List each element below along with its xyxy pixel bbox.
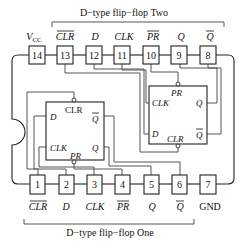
- ff-two-clk-label: CLK: [152, 98, 170, 108]
- bottom-title: D−type flip−flop One: [66, 227, 154, 238]
- flip-flop-one: CLR PR D CLK Q Q: [46, 98, 104, 164]
- ff-one-d-label: D: [49, 112, 57, 122]
- pin-1-number: 1: [35, 179, 40, 190]
- pin8-label: Q: [206, 31, 214, 42]
- top-title: D−type flip−flop Two: [80, 7, 168, 18]
- ff-one-q-label: Q: [92, 143, 99, 153]
- ff-two-pr-bubble: [176, 82, 180, 86]
- pin5-label: Q: [148, 201, 156, 212]
- pin-10-number: 10: [146, 50, 156, 61]
- pin4-label: PR: [116, 201, 129, 212]
- pin-2-number: 2: [64, 179, 69, 190]
- pin-8-number: 8: [206, 50, 211, 61]
- ff-one-clr-label: CLR: [65, 105, 83, 115]
- pin-4-number: 4: [120, 179, 125, 190]
- flip-flop-two: PR CLR CLK D Q Q: [149, 82, 207, 148]
- pin-9-number: 9: [177, 50, 182, 61]
- ff-two-clr-bubble: [176, 144, 180, 148]
- pin11-label: CLK: [115, 31, 135, 42]
- pin7-label: GND: [199, 201, 221, 212]
- ff-two-pr-label: PR: [170, 88, 182, 98]
- pin12-label: D: [90, 31, 99, 42]
- pin9-label: Q: [177, 31, 185, 42]
- pin6-label: Q: [176, 201, 184, 212]
- pin-5-number: 5: [149, 179, 154, 190]
- ff-one-pr-label: PR: [69, 151, 81, 161]
- pin1-label: CLR: [29, 201, 47, 212]
- pin-13-number: 13: [60, 50, 70, 61]
- top-bracket: [52, 22, 224, 27]
- chip-outline-right: [216, 55, 234, 184]
- pin13-label: CLR: [56, 31, 74, 42]
- ff-one-clr-bubble: [72, 98, 76, 102]
- pin-3-number: 3: [92, 179, 97, 190]
- top-pin-labels: VCC CLR D CLK PR Q Q: [26, 31, 214, 44]
- bottom-pin-labels: CLR D CLK PR Q Q GND: [29, 201, 221, 212]
- pin-11-number: 11: [117, 50, 127, 61]
- pin10-label: PR: [146, 31, 159, 42]
- ff-two-q-label: Q: [196, 98, 203, 108]
- bottom-bracket: [24, 219, 194, 224]
- ff-two-clr-label: CLR: [167, 134, 184, 144]
- ff-two-qbar-label: Q: [196, 130, 203, 140]
- d-flip-flop-ic-pinout-diagram: D−type flip−flop Two VCC CLR D CLK PR Q …: [0, 0, 247, 249]
- pin3-label: CLK: [86, 201, 106, 212]
- pin14-label: VCC: [26, 31, 42, 44]
- pin-7-number: 7: [206, 179, 211, 190]
- pin-14-number: 14: [32, 50, 42, 61]
- ff-one-clk-label: CLK: [50, 143, 68, 153]
- pin2-label: D: [61, 201, 70, 212]
- pin-6-number: 6: [177, 179, 182, 190]
- ff-one-qbar-label: Q: [92, 114, 99, 124]
- ff-two-d-label: D: [151, 129, 159, 139]
- pin-12-number: 12: [89, 50, 99, 61]
